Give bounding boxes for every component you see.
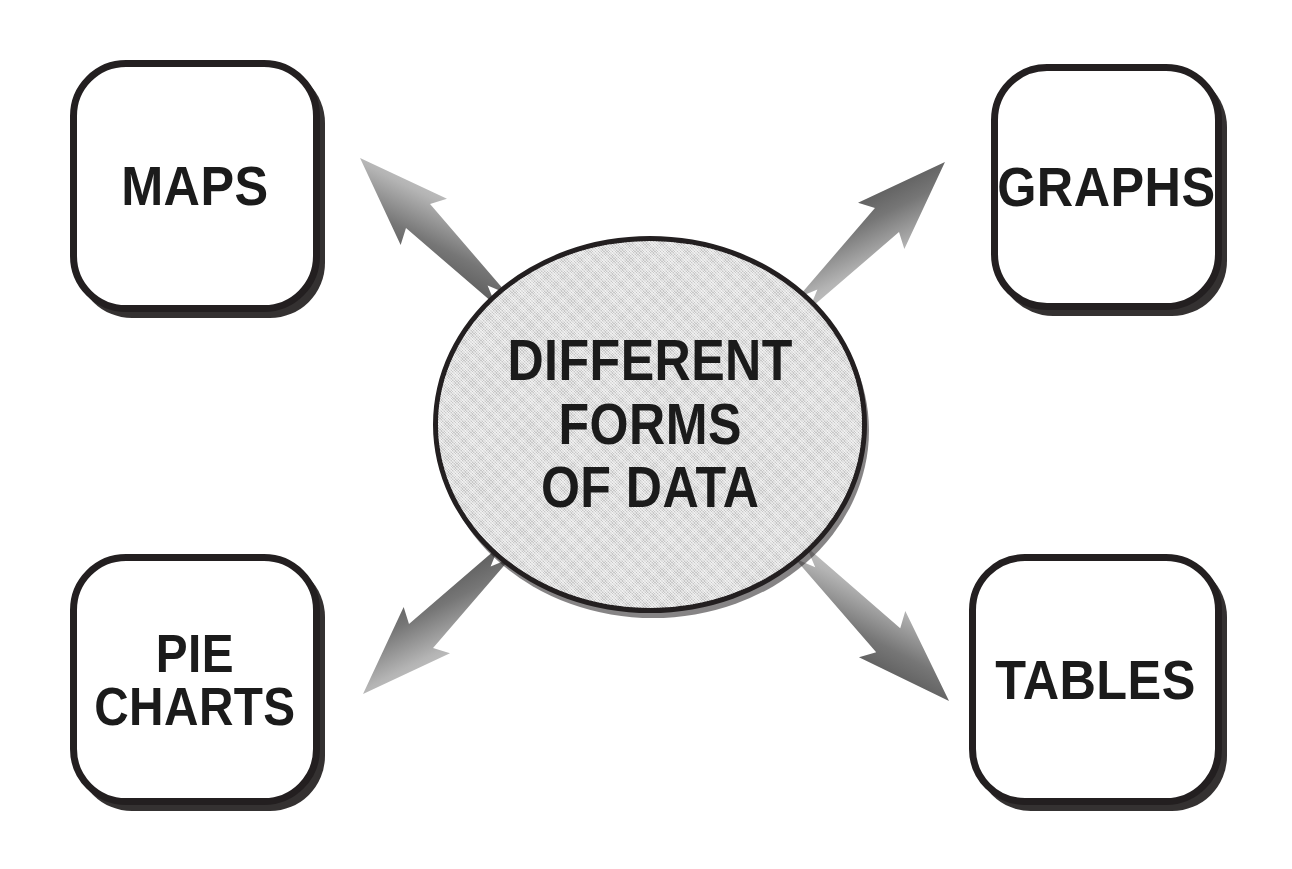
node-tables[interactable]: TABLES bbox=[969, 554, 1222, 805]
arrow-hub-to-tables bbox=[777, 529, 972, 724]
node-tables-label: TABLES bbox=[995, 650, 1196, 709]
hub-label: DIFFERENT FORMS OF DATA bbox=[507, 329, 792, 520]
node-graphs-label: GRAPHS bbox=[997, 157, 1215, 216]
node-pie-charts[interactable]: PIE CHARTS bbox=[70, 554, 320, 805]
hub-node-different-forms-of-data[interactable]: DIFFERENT FORMS OF DATA bbox=[433, 236, 867, 613]
diagram-canvas: DIFFERENT FORMS OF DATA MAPS GRAPHS PIE … bbox=[0, 0, 1292, 869]
node-maps-label: MAPS bbox=[121, 156, 268, 215]
node-graphs[interactable]: GRAPHS bbox=[991, 64, 1222, 310]
node-pie-charts-label: PIE CHARTS bbox=[94, 627, 295, 733]
node-maps[interactable]: MAPS bbox=[70, 60, 320, 312]
